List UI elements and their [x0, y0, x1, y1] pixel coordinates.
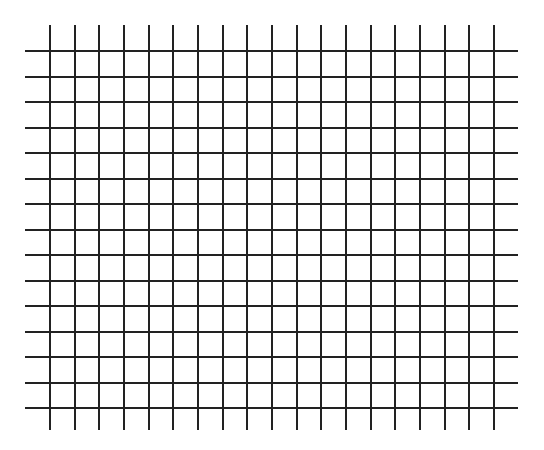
- vertical-grid-line: [74, 25, 76, 430]
- vertical-grid-line: [148, 25, 150, 430]
- vertical-grid-line: [419, 25, 421, 430]
- vertical-grid-line: [123, 25, 125, 430]
- vertical-grid-line: [98, 25, 100, 430]
- vertical-grid-line: [370, 25, 372, 430]
- square-grid: [0, 0, 544, 450]
- vertical-grid-line: [296, 25, 298, 430]
- vertical-grid-line: [468, 25, 470, 430]
- vertical-grid-line: [222, 25, 224, 430]
- vertical-grid-line: [197, 25, 199, 430]
- vertical-grid-line: [394, 25, 396, 430]
- vertical-grid-line: [49, 25, 51, 430]
- vertical-grid-line: [246, 25, 248, 430]
- vertical-grid-line: [271, 25, 273, 430]
- vertical-grid-line: [493, 25, 495, 430]
- vertical-grid-line: [444, 25, 446, 430]
- vertical-grid-line: [320, 25, 322, 430]
- vertical-grid-line: [345, 25, 347, 430]
- vertical-grid-line: [172, 25, 174, 430]
